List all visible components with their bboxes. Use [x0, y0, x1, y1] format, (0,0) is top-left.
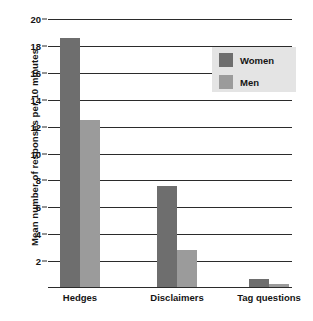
bar-women-hedges [60, 38, 80, 288]
y-axis-tick-label: 18 [30, 40, 41, 51]
y-axis-tick-mark [42, 126, 47, 127]
y-axis-tick-label: 2 [36, 256, 41, 267]
y-axis-tick-mark [42, 207, 47, 208]
gridline [48, 19, 292, 20]
y-axis-tick-label: 12 [30, 121, 41, 132]
y-axis-tick-mark [42, 234, 47, 235]
y-axis-tick-mark [42, 72, 47, 73]
y-axis-tick-mark [42, 180, 47, 181]
y-axis-tick-label: 8 [36, 175, 41, 186]
y-axis-tick-mark [42, 45, 47, 46]
x-axis-label-hedges: Hedges [63, 292, 97, 303]
bar-chart: Mean number of responses per 10 minutes … [0, 0, 313, 321]
bar-women-disclaimers [157, 186, 177, 288]
y-axis-tick-label: 20 [30, 14, 41, 25]
legend-label-women: Women [240, 55, 274, 66]
y-axis-tick-mark [42, 99, 47, 100]
y-axis-tick-label: 14 [30, 94, 41, 105]
x-axis-label-disclaimers: Disclaimers [150, 292, 203, 303]
y-axis-tick-label: 16 [30, 67, 41, 78]
legend-label-men: Men [240, 77, 259, 88]
y-axis-tick-mark [42, 153, 47, 154]
y-axis-tick-label: 4 [36, 229, 41, 240]
bar-men-disclaimers [177, 250, 197, 288]
legend-swatch-women [219, 53, 233, 67]
y-axis-tick-mark [42, 19, 47, 20]
y-axis-tick-label: 10 [30, 148, 41, 159]
chart-legend: WomenMen [212, 47, 296, 92]
y-axis-tick-label: 6 [36, 202, 41, 213]
bar-men-hedges [80, 120, 100, 288]
legend-item-men: Men [219, 75, 259, 89]
gridline [48, 100, 292, 101]
legend-item-women: Women [219, 53, 274, 67]
x-axis-line [48, 287, 292, 289]
y-axis-tick-mark [42, 261, 47, 262]
x-axis-label-tag-questions: Tag questions [237, 292, 301, 303]
legend-swatch-men [219, 75, 233, 89]
